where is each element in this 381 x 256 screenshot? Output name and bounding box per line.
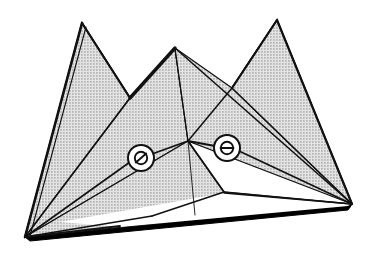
callout-theta[interactable]: θ xyxy=(214,135,240,161)
figure-root: Ø θ xyxy=(0,0,381,256)
folded-paper-diagram: Ø θ xyxy=(0,0,381,256)
callout-phi[interactable]: Ø xyxy=(128,145,154,171)
